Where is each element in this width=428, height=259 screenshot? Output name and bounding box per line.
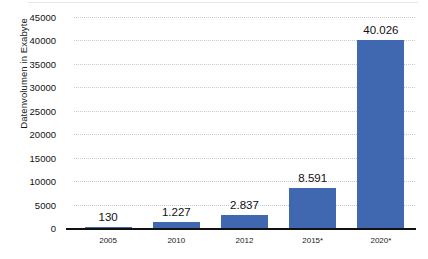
y-axis-tick-label: 40000 (0, 35, 56, 46)
y-axis-tick-label: 10000 (0, 176, 56, 187)
y-axis-tick-label: 25000 (0, 105, 56, 116)
x-axis-tick-label: 2010 (167, 236, 185, 245)
y-axis-tick-label: 30000 (0, 82, 56, 93)
bar (85, 227, 132, 228)
x-axis-tick-label: 2020* (370, 236, 391, 245)
y-axis-tick-label: 45000 (0, 12, 56, 23)
bar-value-label: 2.837 (230, 199, 259, 211)
bar (289, 188, 336, 228)
x-axis-tick-label: 2005 (99, 236, 117, 245)
y-axis-tick-label: 0 (0, 223, 56, 234)
bar-value-label: 130 (99, 211, 118, 223)
chart-top-frame (28, 2, 418, 3)
x-axis-tick-label: 2012 (236, 236, 254, 245)
bar (357, 40, 404, 228)
bar-value-label: 8.591 (298, 172, 327, 184)
x-axis-tick-label: 2015* (302, 236, 323, 245)
x-axis-line (66, 228, 416, 230)
y-axis-tick-label: 35000 (0, 58, 56, 69)
bar (221, 215, 268, 228)
bar (153, 222, 200, 228)
bar-value-label: 1.227 (162, 206, 191, 218)
y-axis-tick-label: 5000 (0, 199, 56, 210)
gridline (74, 17, 415, 18)
y-axis-tick-label: 20000 (0, 129, 56, 140)
bar-chart: Datenvolumen in Exabyte 0500010000150002… (0, 0, 428, 259)
y-axis-tick-label: 15000 (0, 152, 56, 163)
bar-value-label: 40.026 (363, 24, 398, 36)
